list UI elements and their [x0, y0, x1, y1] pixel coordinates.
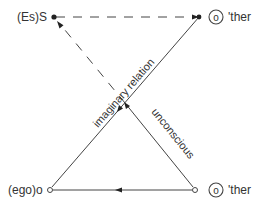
- label-other-top: 'ther: [228, 10, 251, 24]
- arrow-up-left-icon: [57, 21, 64, 29]
- other-top-symbol: o: [213, 12, 219, 23]
- schema-l-diagram: (Es)S (ego)o o 'ther o 'ther imaginary r…: [0, 0, 262, 209]
- label-ego: (ego)o: [8, 183, 43, 197]
- label-subject: (Es)S: [17, 10, 47, 24]
- other-bottom-symbol: o: [213, 185, 219, 196]
- node-other-top-dot: [197, 15, 202, 20]
- node-other-bottom-circle: [193, 188, 198, 193]
- node-subject-dot: [51, 14, 56, 19]
- label-unconscious: unconscious: [149, 106, 197, 161]
- node-ego-circle: [48, 188, 53, 193]
- dashed-diagonal-edge: [60, 24, 125, 103]
- arrow-left-icon: [115, 188, 122, 193]
- label-other-bottom: 'ther: [228, 183, 251, 197]
- imaginary-edge: [52, 17, 199, 187]
- label-imaginary-relation: imaginary relation: [90, 56, 156, 129]
